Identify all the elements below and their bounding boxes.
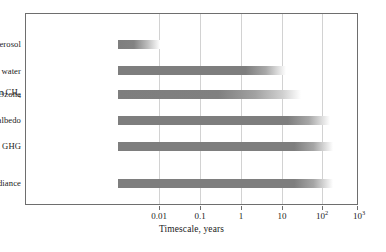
axis-title-wrapper: Timescale, years	[25, 0, 358, 252]
figure-timescale-chart: Total aerosol Stratospheric water vapor …	[0, 0, 386, 252]
cat-label-surface-albedo: Surface albedo	[0, 115, 21, 126]
xtick-label-1000-exponent: 3	[362, 209, 365, 216]
cat-label-total-aerosol: Total aerosol	[0, 39, 21, 50]
cat-label-swv-line1: Stratospheric water	[0, 66, 21, 76]
category-labels: Total aerosol Stratospheric water vapor …	[0, 14, 21, 206]
cat-label-long-lived-ghg: Long-lived GHG	[0, 141, 21, 152]
x-axis-title: Timescale, years	[25, 224, 358, 234]
cat-label-ozone: Ozone	[0, 89, 21, 100]
cat-label-solar-irradiance: Solar irradiance	[0, 178, 21, 189]
